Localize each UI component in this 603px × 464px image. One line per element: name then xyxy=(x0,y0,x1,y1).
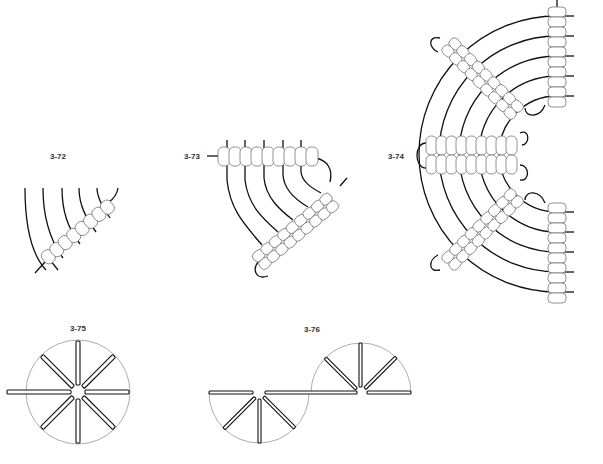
bead-row-upper-diagonal xyxy=(440,36,525,121)
diagram-3-74 xyxy=(417,0,574,303)
bead-row-horizontal xyxy=(426,136,517,174)
diagram-3-75 xyxy=(7,340,130,444)
bead-column-top xyxy=(548,7,566,107)
spokes-left xyxy=(209,391,357,443)
bead-row-lower-diagonal xyxy=(440,187,525,272)
diagram-3-73 xyxy=(207,140,347,277)
bead-row xyxy=(39,198,116,266)
bead-column-bottom xyxy=(548,203,566,303)
spokes-right xyxy=(324,343,411,394)
diagram-3-76 xyxy=(209,343,411,443)
spokes xyxy=(7,341,129,443)
bead-row-diagonal xyxy=(251,191,340,271)
diagram-3-72 xyxy=(25,188,118,273)
bead-row-top xyxy=(218,147,318,166)
